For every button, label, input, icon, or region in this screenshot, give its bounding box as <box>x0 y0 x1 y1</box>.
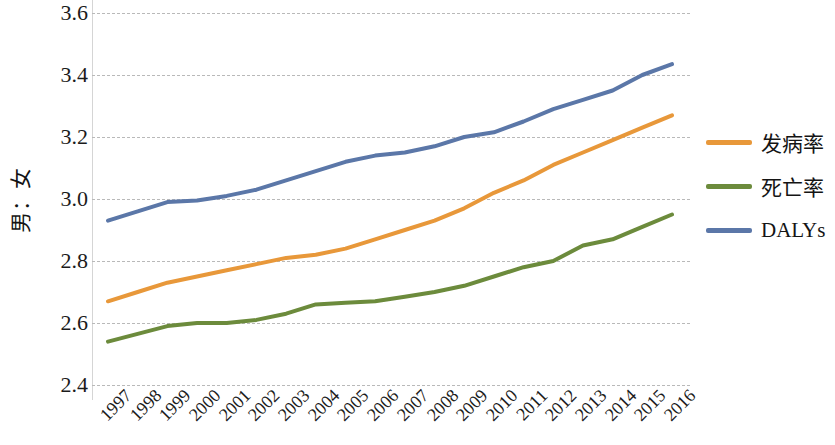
line-chart: 男：女 3.63.43.23.02.82.62.4 19971998199920… <box>0 0 835 445</box>
y-axis-tick-label: 3.2 <box>36 126 88 148</box>
x-axis-tick-label: 2003 <box>275 386 313 424</box>
chart-legend: 发病率死亡率DALYs <box>706 120 834 252</box>
x-axis-tick-label: 2013 <box>571 386 609 424</box>
series-line-发病率 <box>108 115 672 301</box>
plot-area <box>92 0 690 400</box>
x-axis-tick-label: 2012 <box>542 386 580 424</box>
series-line-DALYs <box>108 64 672 221</box>
x-axis-tick-label: 2000 <box>186 386 224 424</box>
x-axis-tick-labels: 1997199819992000200120022003200420052006… <box>92 386 690 445</box>
y-axis-tick-label: 2.4 <box>36 374 88 396</box>
x-axis-tick-label: 2009 <box>453 386 491 424</box>
y-axis-tick-labels: 3.63.43.23.02.82.62.4 <box>36 0 88 445</box>
y-axis-tick-label: 2.6 <box>36 312 88 334</box>
x-axis-tick-label: 2010 <box>482 386 520 424</box>
x-axis-tick-label: 2006 <box>364 386 402 424</box>
y-axis-title-text: 男：女 <box>4 167 34 233</box>
legend-label: 发病率 <box>761 127 824 157</box>
y-axis-tick-label: 3.0 <box>36 188 88 210</box>
legend-item[interactable]: 死亡率 <box>706 164 834 208</box>
x-axis-tick-label: 2007 <box>393 386 431 424</box>
x-axis-tick-label: 1999 <box>156 386 194 424</box>
legend-swatch-icon <box>706 140 752 145</box>
legend-item[interactable]: DALYs <box>706 208 834 252</box>
x-axis-tick-label: 2002 <box>245 386 283 424</box>
y-axis-tick-label: 3.6 <box>36 2 88 24</box>
legend-swatch-icon <box>706 228 752 233</box>
legend-label: DALYs <box>761 218 825 243</box>
series-lines <box>92 0 690 400</box>
x-axis-tick-label: 2011 <box>513 386 551 424</box>
legend-swatch-icon <box>706 184 752 189</box>
x-axis-tick-label: 2005 <box>334 386 372 424</box>
y-axis-tick-label: 3.4 <box>36 64 88 86</box>
legend-label: 死亡率 <box>761 171 824 201</box>
legend-item[interactable]: 发病率 <box>706 120 834 164</box>
x-axis-tick-label: 1997 <box>97 386 135 424</box>
y-axis-tick-label: 2.8 <box>36 250 88 272</box>
x-axis-tick-label: 2016 <box>661 386 699 424</box>
y-axis-title: 男：女 <box>2 0 36 400</box>
x-axis-tick-label: 2015 <box>631 386 669 424</box>
